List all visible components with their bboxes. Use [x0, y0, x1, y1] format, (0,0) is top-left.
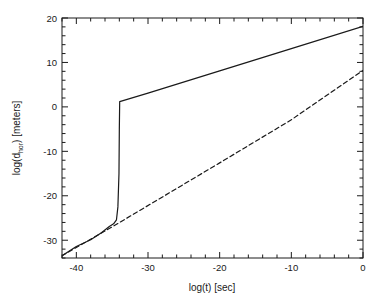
- y-axis-title-tail: ) [meters]: [11, 100, 22, 142]
- y-tick-label: -10: [43, 146, 57, 157]
- x-tick-label: -40: [69, 262, 83, 273]
- y-tick-label: 20: [46, 13, 57, 24]
- x-tick-label: -30: [141, 262, 155, 273]
- x-tick-label: -10: [284, 262, 298, 273]
- y-tick-label: 10: [46, 57, 57, 68]
- y-tick-label: 0: [52, 101, 57, 112]
- x-axis-title: log(t) [sec]: [189, 282, 236, 293]
- y-axis-title-main: log(d: [11, 153, 22, 175]
- chart-canvas: -40-30-20-10020100-10-20-30 log(t) [sec]…: [0, 0, 384, 303]
- y-tick-label: -30: [43, 235, 57, 246]
- y-tick-label: -20: [43, 190, 57, 201]
- x-tick-label: 0: [360, 262, 365, 273]
- x-tick-label: -20: [213, 262, 227, 273]
- figure-container: -40-30-20-10020100-10-20-30 log(t) [sec]…: [0, 0, 384, 303]
